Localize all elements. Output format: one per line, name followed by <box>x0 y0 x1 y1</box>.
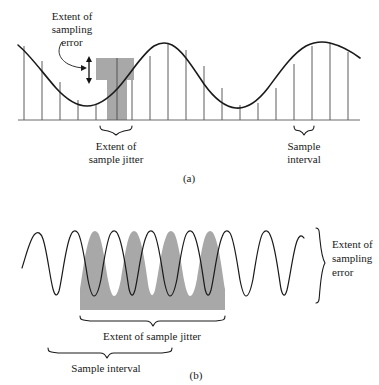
panel-a-sampling-error-arrow <box>86 56 92 84</box>
panel-a-sampling-error-label-line1: Extent of <box>52 10 93 22</box>
panel-a-sample-jitter-label-line2: sample jitter <box>89 153 144 165</box>
sampling-jitter-figure: Extent of sampling error Extent of sampl… <box>0 0 379 385</box>
panel-a-jitter-brace <box>100 126 132 135</box>
panel-a-leader-arrowhead <box>81 65 87 71</box>
panel-b-sampling-error-label-line1: Extent of <box>332 238 373 250</box>
panel-b-sample-interval-label: Sample interval <box>71 362 140 374</box>
panel-b-jitter-brace <box>80 316 225 326</box>
panel-a-sample-interval-label-line1: Sample <box>288 140 321 152</box>
panel-b-sampling-error-brace <box>316 228 325 303</box>
panel-b-sample-jitter-label: Extent of sample jitter <box>103 330 201 342</box>
panel-a-caption: (a) <box>183 172 196 185</box>
panel-b-jitter-fill <box>80 231 225 310</box>
panel-a-sample-lines <box>24 43 348 120</box>
figure-root: Extent of sampling error Extent of sampl… <box>0 0 379 385</box>
panel-a-sample-interval-label-line2: interval <box>287 153 321 165</box>
panel-a-sample-jitter-label-line1: Extent of <box>96 140 137 152</box>
panel-b-sample-interval-brace <box>48 348 172 358</box>
panel-b-sampling-error-label-line2: sampling <box>332 252 373 264</box>
panel-b-sampling-error-label-line3: error <box>332 266 354 278</box>
panel-a-sample-interval-brace <box>294 126 314 135</box>
panel-b-caption: (b) <box>190 369 203 382</box>
panel-a: Extent of sampling error Extent of sampl… <box>18 10 360 185</box>
panel-a-sampling-error-label-line2: sampling <box>52 23 93 35</box>
panel-a-waveform <box>18 42 360 108</box>
panel-b: Extent of sampling error Extent of sampl… <box>22 228 373 382</box>
panel-a-sampling-error-label-line3: error <box>61 36 83 48</box>
